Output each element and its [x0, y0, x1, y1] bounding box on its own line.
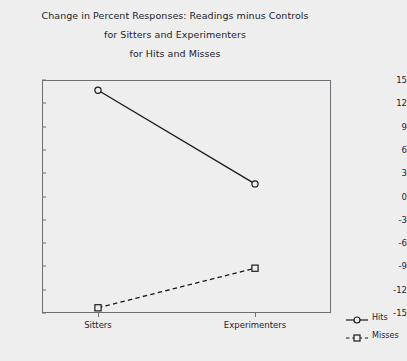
x-tick-label-sitters: Sitters — [84, 320, 112, 330]
x-tick-mark — [98, 313, 99, 317]
y-tick-mark — [42, 266, 46, 267]
y-tick-mark — [42, 149, 46, 150]
chart-title-line-1: Change in Percent Responses: Readings mi… — [0, 6, 350, 25]
chart-title-line-2: for Sitters and Experimenters — [0, 25, 350, 44]
y-tick-mark — [42, 196, 46, 197]
y-tick-label: -6 — [375, 238, 407, 248]
y-tick-label: -12 — [375, 285, 407, 295]
y-tick-mark — [42, 80, 46, 81]
circle-marker-icon — [345, 311, 369, 323]
legend-label-misses: Misses — [372, 331, 399, 340]
chart-title: Change in Percent Responses: Readings mi… — [0, 6, 350, 63]
y-tick-mark — [42, 289, 46, 290]
legend-item-hits[interactable]: Hits — [345, 308, 407, 326]
y-tick-mark — [42, 219, 46, 220]
square-marker-icon — [345, 329, 369, 341]
y-tick-mark — [42, 313, 46, 314]
x-tick-mark — [255, 313, 256, 317]
legend-item-misses[interactable]: Misses — [345, 326, 407, 344]
y-tick-label: 6 — [375, 145, 407, 155]
y-tick-label: -9 — [375, 261, 407, 271]
chart-container: Change in Percent Responses: Readings mi… — [0, 0, 407, 361]
y-tick-mark — [42, 243, 46, 244]
chart-title-line-3: for Hits and Misses — [0, 44, 350, 63]
chart-legend: Hits Misses — [345, 308, 407, 344]
y-tick-label: 15 — [375, 75, 407, 85]
y-tick-label: 9 — [375, 122, 407, 132]
legend-label-hits: Hits — [372, 313, 388, 322]
y-tick-mark — [42, 173, 46, 174]
x-tick-label-experimenters: Experimenters — [224, 320, 286, 330]
y-tick-label: 3 — [375, 168, 407, 178]
y-tick-label: 12 — [375, 98, 407, 108]
y-tick-mark — [42, 103, 46, 104]
y-tick-label: 0 — [375, 192, 407, 202]
y-tick-label: -3 — [375, 215, 407, 225]
y-tick-mark — [42, 126, 46, 127]
plot-area — [42, 80, 331, 313]
